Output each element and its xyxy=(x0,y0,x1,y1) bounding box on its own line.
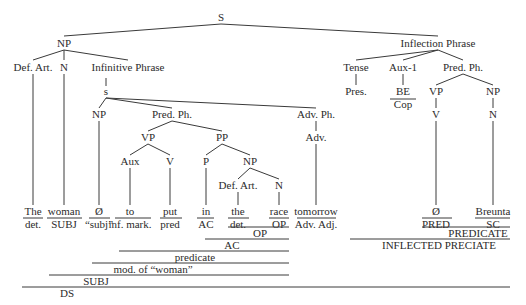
tree-node-infph: Infinitive Phrase xyxy=(91,61,164,73)
tree-edge xyxy=(436,74,463,85)
bracket-label: SUBJ xyxy=(83,275,109,287)
tree-edge xyxy=(130,144,148,155)
tree-node-vp2: VP xyxy=(429,85,443,97)
tree-node-defart2: Def. Art. xyxy=(219,179,258,191)
tree-node-predph2: Pred. Ph. xyxy=(443,61,483,73)
bracket-label: OP xyxy=(253,227,267,239)
constituent-brackets: OPACpredicatemod. of “woman”SUBJDSPREDIC… xyxy=(22,227,510,299)
tree-node-tense: Tense xyxy=(343,61,369,73)
tree-edge xyxy=(33,50,64,60)
terminal-word: Ø xyxy=(95,205,103,217)
terminal-word: in xyxy=(202,205,211,217)
tree-node-v1: V xyxy=(166,155,174,167)
cop-label: Cop xyxy=(394,98,413,110)
syntax-tree-diagram: SNPDef. Art.NInfinitive PhrasesNPPred. P… xyxy=(0,0,526,305)
tree-edge xyxy=(221,24,438,36)
tree-edge xyxy=(222,144,250,155)
grammatical-role-label: Adv. Adj. xyxy=(295,218,338,230)
tree-edge xyxy=(64,24,221,36)
tree-node-np2: NP xyxy=(92,108,106,120)
tree-node-v2: V xyxy=(432,108,440,120)
grammatical-role-label: det. xyxy=(25,218,41,230)
tree-edge xyxy=(356,50,438,60)
grammatical-role-label: SUBJ xyxy=(51,218,77,230)
bracket-label: mod. of “woman” xyxy=(113,263,192,275)
tree-edge xyxy=(148,144,170,155)
tree-node-vp1: VP xyxy=(141,131,155,143)
tree-node-pp: PP xyxy=(216,131,228,143)
tree-node-np1: NP xyxy=(57,37,71,49)
tree-node-predph1: Pred. Ph. xyxy=(152,108,192,120)
tree-node-defart1: Def. Art. xyxy=(14,61,53,73)
terminal-word: Breunta xyxy=(476,205,511,217)
tree-edge xyxy=(99,98,106,108)
tree-node-n4: N xyxy=(489,108,497,120)
grammatical-role-label: det. xyxy=(230,218,246,230)
tree-node-be: BE xyxy=(396,85,410,97)
tree-edge xyxy=(403,50,438,60)
tree-node-s: s xyxy=(104,85,108,97)
tree-edge xyxy=(172,121,222,131)
tree-node-advph: Adv. Ph. xyxy=(297,108,335,120)
bracket-label: DS xyxy=(60,287,74,299)
tree-node-n1: N xyxy=(60,61,68,73)
terminal-word: tomorrow xyxy=(294,205,337,217)
terminal-word: the xyxy=(231,205,245,217)
tree-edge xyxy=(64,50,128,60)
grammatical-role-label: PRED xyxy=(422,218,450,230)
grammatical-role-label: AC xyxy=(198,218,213,230)
terminal-word: to xyxy=(126,205,135,217)
tree-node-inflph: Inflection Phrase xyxy=(401,37,476,49)
bracket-label: AC xyxy=(224,239,239,251)
copula-label-group: Cop xyxy=(390,98,416,110)
tree-node-adv: Adv. xyxy=(306,131,327,143)
grammatical-role-label: pred xyxy=(160,218,180,230)
tree-edge xyxy=(148,121,172,131)
bracket-label: PREDICATE xyxy=(448,227,508,239)
tree-node-s: S xyxy=(218,11,224,23)
bracket-label: predicate xyxy=(175,251,215,263)
grammatical-role-label: OP xyxy=(272,218,286,230)
terminal-word: woman xyxy=(48,205,81,217)
tree-node-aux1: Aux-1 xyxy=(389,61,417,73)
terminal-word: race xyxy=(270,205,288,217)
bracket-label: INFLECTED PRECIATE xyxy=(382,239,496,251)
tree-node-n3: N xyxy=(275,179,283,191)
tree-edge xyxy=(206,144,222,155)
tree-edge xyxy=(250,168,279,179)
tree-edge xyxy=(238,168,250,179)
tree-node-np3: NP xyxy=(243,155,257,167)
tree-nodes: SNPDef. Art.NInfinitive PhrasesNPPred. P… xyxy=(14,11,500,191)
tree-node-p: P xyxy=(203,155,209,167)
terminal-word: The xyxy=(24,205,41,217)
terminal-word: put xyxy=(163,205,177,217)
tree-node-pres: Pres. xyxy=(345,85,367,97)
grammatical-role-label: inf. mark. xyxy=(108,218,151,230)
tree-edge xyxy=(438,50,463,60)
tree-edge xyxy=(463,74,493,85)
tree-node-aux: Aux xyxy=(121,155,140,167)
terminal-word: Ø xyxy=(432,205,440,217)
tree-node-np4: NP xyxy=(486,85,500,97)
